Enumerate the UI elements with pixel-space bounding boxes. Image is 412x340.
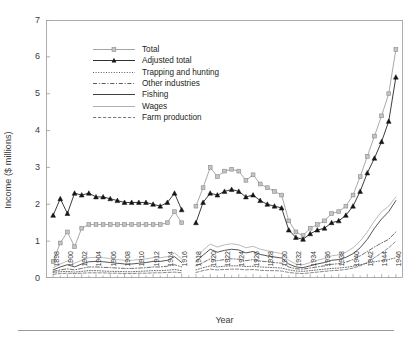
marker-square-total <box>323 219 327 223</box>
marker-square-total <box>315 223 319 227</box>
marker-square-total <box>180 221 184 225</box>
marker-square-total <box>144 223 148 227</box>
marker-triangle-adjusted_total <box>358 189 363 194</box>
y-tick-label: 6 <box>16 52 40 61</box>
marker-square-total <box>237 169 241 173</box>
y-axis-title: Income ($ millions) <box>0 0 16 340</box>
marker-square-total <box>244 178 248 182</box>
marker-square-total <box>108 223 112 227</box>
x-tick-label: 1910 <box>138 251 145 281</box>
marker-square-total <box>387 92 391 96</box>
marker-square-total <box>373 134 377 138</box>
y-tick-label: 2 <box>16 200 40 209</box>
x-tick-label: 1920 <box>210 251 217 281</box>
x-tick-label: 1936 <box>324 251 331 281</box>
x-tick-label: 1926 <box>253 251 260 281</box>
legend-item-total[interactable]: Total <box>92 44 219 55</box>
marker-square-total <box>280 193 284 197</box>
marker-square-total <box>123 223 127 227</box>
marker-triangle-adjusted_total <box>172 191 177 196</box>
marker-triangle-adjusted_total <box>372 156 377 161</box>
y-tick-label: 5 <box>16 89 40 98</box>
marker-triangle-adjusted_total <box>58 196 63 201</box>
marker-square-total <box>351 193 355 197</box>
marker-triangle-adjusted_total <box>308 231 313 236</box>
marker-triangle-adjusted_total <box>265 202 270 207</box>
marker-square-total <box>344 204 348 208</box>
series-line-total <box>196 49 396 235</box>
series-line-adjusted_total <box>53 193 182 215</box>
marker-square-total <box>215 175 219 179</box>
y-tick-label: 4 <box>16 126 40 135</box>
legend-swatch-farm_production <box>92 112 136 123</box>
marker-triangle-adjusted_total <box>393 75 398 80</box>
legend-swatch-trapping_and_hunting <box>92 67 136 78</box>
legend-label: Wages <box>142 102 167 111</box>
x-tick-label: 1900 <box>67 251 74 281</box>
legend-swatch-other_industries <box>92 78 136 89</box>
x-tick-label: 1912 <box>153 251 160 281</box>
legend-item-farm_production[interactable]: Farm production <box>92 112 219 123</box>
marker-square-total <box>287 219 291 223</box>
legend-label: Total <box>142 45 159 54</box>
x-tick-label: 1942 <box>367 251 374 281</box>
x-tick-label: 1916 <box>181 251 188 281</box>
marker-triangle-adjusted_total <box>179 207 184 212</box>
marker-square-total <box>80 226 84 230</box>
marker-square-total <box>73 245 77 249</box>
legend-item-wages[interactable]: Wages <box>92 100 219 111</box>
marker-triangle-adjusted_total <box>72 191 77 196</box>
marker-square-total <box>380 114 384 118</box>
y-tick-label: 7 <box>16 16 40 25</box>
marker-triangle-adjusted_total <box>65 211 70 216</box>
x-tick-label: 1918 <box>195 251 202 281</box>
marker-square-total <box>251 173 255 177</box>
x-tick-label: 1906 <box>110 251 117 281</box>
marker-triangle-adjusted_total <box>51 213 56 218</box>
marker-square-total <box>66 230 70 234</box>
x-tick-label: 1928 <box>267 251 274 281</box>
marker-square-total <box>151 223 155 227</box>
x-axis-title: Year <box>46 315 403 325</box>
marker-triangle-adjusted_total <box>379 139 384 144</box>
marker-triangle-adjusted_total <box>286 228 291 233</box>
x-tick-label: 1946 <box>395 251 402 281</box>
marker-triangle-adjusted_total <box>208 191 213 196</box>
legend-marker-square <box>112 48 116 52</box>
marker-square-total <box>101 223 105 227</box>
marker-triangle-adjusted_total <box>86 191 91 196</box>
x-tick-label: 1932 <box>295 251 302 281</box>
x-tick-label: 1922 <box>224 251 231 281</box>
marker-square-total <box>173 210 177 214</box>
x-tick-label: 1902 <box>81 251 88 281</box>
marker-square-total <box>194 204 198 208</box>
y-tick-label: 0 <box>16 274 40 283</box>
x-tick-label: 1940 <box>353 251 360 281</box>
marker-square-total <box>365 154 369 158</box>
marker-square-total <box>308 226 312 230</box>
legend-label: Fishing <box>142 90 168 99</box>
legend-item-other_industries[interactable]: Other industries <box>92 78 219 89</box>
legend-swatch-fishing <box>92 89 136 100</box>
x-tick-label: 1898 <box>53 251 60 281</box>
marker-square-total <box>394 48 398 52</box>
legend-label: Farm production <box>142 113 202 122</box>
marker-square-total <box>223 169 227 173</box>
marker-square-total <box>258 182 262 186</box>
x-tick-label: 1938 <box>338 251 345 281</box>
marker-square-total <box>116 223 120 227</box>
x-tick-label: 1934 <box>310 251 317 281</box>
legend-item-fishing[interactable]: Fishing <box>92 89 219 100</box>
x-tick-label: 1904 <box>95 251 102 281</box>
legend-item-adjusted_total[interactable]: Adjusted total <box>92 55 219 66</box>
marker-triangle-adjusted_total <box>365 170 370 175</box>
marker-triangle-adjusted_total <box>251 193 256 198</box>
legend-swatch-adjusted_total <box>92 55 136 66</box>
marker-triangle-adjusted_total <box>351 204 356 209</box>
marker-square-total <box>94 223 98 227</box>
legend-label: Other industries <box>142 79 200 88</box>
x-tick-label: 1944 <box>381 251 388 281</box>
legend-item-trapping_and_hunting[interactable]: Trapping and hunting <box>92 67 219 78</box>
marker-square-total <box>337 210 341 214</box>
legend-swatch-total <box>92 44 136 55</box>
